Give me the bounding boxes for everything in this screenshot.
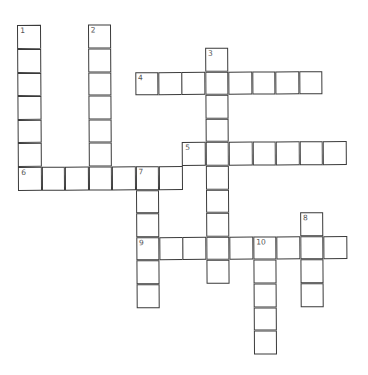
crossword-cell[interactable]: [206, 166, 230, 190]
clue-number: 1: [20, 27, 25, 35]
clue-number: 3: [208, 50, 213, 58]
clue-number: 4: [138, 74, 143, 82]
crossword-cell[interactable]: [136, 190, 160, 214]
crossword-cell[interactable]: [206, 213, 230, 237]
crossword-cell[interactable]: [253, 283, 277, 307]
clue-number: 8: [303, 214, 308, 222]
crossword-cell[interactable]: [276, 71, 300, 95]
clue-number: 9: [139, 239, 144, 247]
crossword-cell[interactable]: [253, 260, 277, 284]
crossword-cell[interactable]: [65, 166, 89, 190]
crossword-cell[interactable]: [88, 119, 112, 143]
crossword-grid: 16234579810: [0, 0, 368, 375]
crossword-cell[interactable]: [276, 142, 300, 166]
crossword-cell[interactable]: [42, 167, 66, 191]
crossword-cell[interactable]: [159, 166, 183, 190]
crossword-cell[interactable]: [159, 237, 183, 261]
crossword-cell[interactable]: [183, 237, 207, 261]
crossword-cell[interactable]: 2: [88, 25, 112, 49]
clue-number: 2: [91, 27, 96, 35]
crossword-cell[interactable]: [136, 284, 160, 308]
clue-number: 10: [256, 238, 266, 246]
crossword-cell[interactable]: [18, 143, 42, 167]
crossword-cell[interactable]: 1: [17, 25, 41, 49]
crossword-cell[interactable]: [206, 260, 230, 284]
crossword-cell[interactable]: [252, 71, 276, 95]
crossword-cell[interactable]: 9: [136, 237, 160, 261]
crossword-cell[interactable]: [299, 71, 323, 95]
crossword-cell[interactable]: [323, 141, 347, 165]
crossword-cell[interactable]: [18, 120, 42, 144]
crossword-cell[interactable]: [299, 141, 323, 165]
crossword-cell[interactable]: [277, 236, 301, 260]
crossword-cell[interactable]: 6: [18, 167, 42, 191]
crossword-cell[interactable]: [253, 142, 277, 166]
crossword-cell[interactable]: [230, 236, 254, 260]
crossword-cell[interactable]: [88, 143, 112, 167]
crossword-cell[interactable]: 4: [135, 72, 159, 96]
crossword-cell[interactable]: [206, 236, 230, 260]
crossword-cell[interactable]: [88, 48, 112, 72]
crossword-cell[interactable]: 8: [300, 212, 324, 236]
crossword-cell[interactable]: [206, 142, 230, 166]
crossword-cell[interactable]: [17, 49, 41, 73]
clue-number: 5: [185, 144, 190, 152]
crossword-cell[interactable]: [136, 213, 160, 237]
clue-number: 6: [21, 169, 26, 177]
crossword-cell[interactable]: [136, 260, 160, 284]
crossword-cell[interactable]: [206, 189, 230, 213]
crossword-cell[interactable]: [323, 236, 347, 260]
crossword-cell[interactable]: [182, 71, 206, 95]
crossword-cell[interactable]: [229, 142, 253, 166]
crossword-cell[interactable]: 7: [135, 166, 159, 190]
crossword-cell[interactable]: [18, 72, 42, 96]
crossword-cell[interactable]: [300, 259, 324, 283]
crossword-cell[interactable]: [89, 166, 113, 190]
crossword-cell[interactable]: [300, 283, 324, 307]
crossword-cell[interactable]: [112, 166, 136, 190]
clue-number: 7: [138, 168, 143, 176]
crossword-cell[interactable]: [88, 72, 112, 96]
crossword-cell[interactable]: [205, 95, 229, 119]
crossword-cell[interactable]: [254, 307, 278, 331]
crossword-cell[interactable]: [254, 331, 278, 355]
crossword-cell[interactable]: [88, 96, 112, 120]
crossword-cell[interactable]: 3: [205, 48, 229, 72]
crossword-cell[interactable]: 10: [253, 236, 277, 260]
crossword-cell[interactable]: [18, 96, 42, 120]
crossword-cell[interactable]: [158, 72, 182, 96]
crossword-cell[interactable]: [205, 118, 229, 142]
crossword-cell[interactable]: 5: [182, 142, 206, 166]
crossword-cell[interactable]: [205, 71, 229, 95]
crossword-cell[interactable]: [300, 236, 324, 260]
crossword-cell[interactable]: [229, 71, 253, 95]
